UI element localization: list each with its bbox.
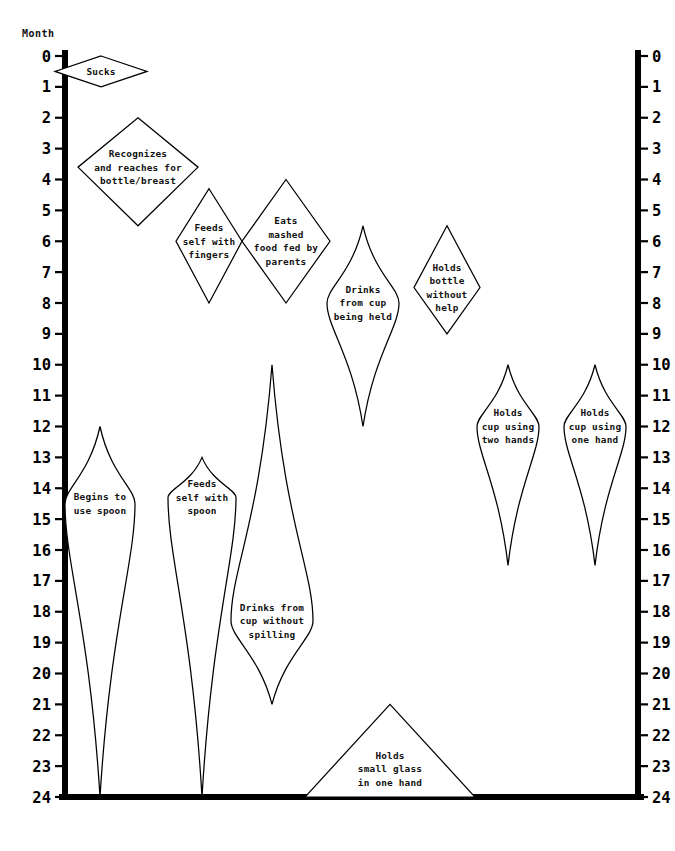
milestone-label-line: bottle/breast bbox=[100, 175, 176, 186]
milestone-label-line: from cup bbox=[340, 297, 387, 308]
milestone-label-line: cup using bbox=[482, 421, 535, 432]
y-axis-tick-label-left-23: 23 bbox=[32, 758, 51, 776]
milestone-label-line: use spoon bbox=[74, 505, 127, 516]
y-axis-title-group: Month bbox=[22, 28, 55, 39]
y-axis-tick-label-left-7: 7 bbox=[42, 264, 51, 282]
milestone-label-line: Holds bbox=[580, 407, 609, 418]
milestone-label-line: Feeds bbox=[194, 222, 223, 233]
milestone-label-line: Begins to bbox=[74, 491, 127, 502]
y-axis-tick-label-right-10: 10 bbox=[652, 356, 671, 374]
y-axis-tick-label-right-5: 5 bbox=[652, 202, 661, 220]
y-axis-tick-label-left-24: 24 bbox=[32, 789, 51, 807]
milestone-label-line: small glass bbox=[358, 763, 422, 774]
milestone-label-line: self with bbox=[176, 492, 229, 503]
y-axis-tick-label-right-17: 17 bbox=[652, 572, 671, 590]
milestone-label-line: self with bbox=[183, 236, 236, 247]
y-axis-tick-label-left-4: 4 bbox=[42, 171, 51, 189]
milestone-label-line: spoon bbox=[187, 505, 216, 516]
milestone-label-line: without bbox=[427, 289, 468, 300]
milestone-label-line: one hand bbox=[572, 434, 619, 445]
y-axis-tick-label-right-14: 14 bbox=[652, 480, 671, 498]
y-axis-tick-label-right-1: 1 bbox=[652, 78, 661, 96]
y-axis-tick-label-left-3: 3 bbox=[42, 140, 51, 158]
y-axis-tick-label-right-19: 19 bbox=[652, 634, 671, 652]
milestone-shape-drinks-from-cup-being-held bbox=[327, 226, 399, 427]
y-axis-tick-label-left-9: 9 bbox=[42, 325, 51, 343]
milestone-label-line: food fed by bbox=[254, 242, 318, 253]
y-axis-tick-label-left-6: 6 bbox=[42, 233, 51, 251]
y-axis-tick-label-right-7: 7 bbox=[652, 264, 661, 282]
milestone-label-line: help bbox=[435, 302, 459, 313]
y-axis-tick-label-right-24: 24 bbox=[652, 789, 671, 807]
chart-canvas: Month 0123456789101112131415161718192021… bbox=[0, 0, 675, 851]
y-axis-tick-label-right-3: 3 bbox=[652, 140, 661, 158]
y-axis-tick-label-left-18: 18 bbox=[32, 603, 51, 621]
milestone-label-drinks-from-cup-without-spilling: Drinks fromcup withoutspilling bbox=[240, 602, 304, 640]
milestone-label-line: and reaches for bbox=[94, 162, 182, 173]
milestone-label-line: spilling bbox=[249, 629, 296, 640]
y-axis-tick-label-left-21: 21 bbox=[32, 696, 51, 714]
y-axis-tick-label-left-13: 13 bbox=[32, 449, 51, 467]
milestone-label-line: Holds bbox=[493, 407, 522, 418]
milestone-label-line: two hands bbox=[482, 434, 535, 445]
y-axis-tick-label-left-17: 17 bbox=[32, 572, 51, 590]
y-axis-left-ticks: 0123456789101112131415161718192021222324 bbox=[32, 48, 64, 807]
y-axis-tick-label-left-0: 0 bbox=[42, 48, 51, 66]
y-axis-tick-label-right-13: 13 bbox=[652, 449, 671, 467]
milestone-label-line: Holds bbox=[375, 750, 404, 761]
y-axis-tick-label-right-2: 2 bbox=[652, 109, 661, 127]
y-axis-tick-label-left-11: 11 bbox=[32, 387, 51, 405]
y-axis-tick-label-right-8: 8 bbox=[652, 295, 661, 313]
milestone-shape-holds-cup-using-one-hand bbox=[564, 365, 626, 566]
y-axis-tick-label-right-4: 4 bbox=[652, 171, 661, 189]
y-axis-tick-label-left-16: 16 bbox=[32, 542, 51, 560]
milestone-label-line: being held bbox=[334, 311, 392, 322]
milestone-timeline-chart: Month 0123456789101112131415161718192021… bbox=[0, 0, 675, 851]
milestone-label-line: mashed bbox=[268, 229, 303, 240]
milestone-shape-drinks-from-cup-without-spilling bbox=[231, 365, 313, 705]
y-axis-right-ticks: 0123456789101112131415161718192021222324 bbox=[639, 48, 671, 807]
y-axis-tick-label-right-21: 21 bbox=[652, 696, 671, 714]
milestone-shape-begins-to-use-spoon bbox=[65, 427, 135, 798]
y-axis-tick-label-right-0: 0 bbox=[652, 48, 661, 66]
milestone-label-line: fingers bbox=[189, 249, 230, 260]
milestone-label-line: bottle bbox=[429, 275, 464, 286]
y-axis-tick-label-right-11: 11 bbox=[652, 387, 671, 405]
y-axis-tick-label-left-8: 8 bbox=[42, 295, 51, 313]
y-axis-tick-label-right-16: 16 bbox=[652, 542, 671, 560]
milestone-label-line: Eats bbox=[274, 215, 297, 226]
y-axis-tick-label-left-5: 5 bbox=[42, 202, 51, 220]
milestone-label-line: Feeds bbox=[187, 478, 216, 489]
y-axis-tick-label-right-23: 23 bbox=[652, 758, 671, 776]
y-axis-tick-label-right-20: 20 bbox=[652, 665, 671, 683]
y-axis-tick-label-right-22: 22 bbox=[652, 727, 671, 745]
y-axis-tick-label-right-9: 9 bbox=[652, 325, 661, 343]
y-axis-tick-label-left-19: 19 bbox=[32, 634, 51, 652]
y-axis-title: Month bbox=[22, 28, 55, 39]
y-axis-tick-label-left-22: 22 bbox=[32, 727, 51, 745]
milestone-label-line: cup using bbox=[569, 421, 622, 432]
milestone-label-sucks: Sucks bbox=[86, 66, 115, 77]
milestone-label-line: Sucks bbox=[86, 66, 115, 77]
milestone-shape-eats-mashed-food-fed-by-parents bbox=[242, 180, 330, 304]
milestone-label-line: cup without bbox=[240, 615, 304, 626]
y-axis-tick-label-left-2: 2 bbox=[42, 109, 51, 127]
milestone-label-line: Drinks from bbox=[240, 602, 304, 613]
milestone-label-line: in one hand bbox=[358, 777, 422, 788]
milestone-label-line: Recognizes bbox=[109, 148, 167, 159]
milestone-label-line: Holds bbox=[432, 262, 461, 273]
y-axis-tick-label-left-20: 20 bbox=[32, 665, 51, 683]
y-axis-tick-label-left-15: 15 bbox=[32, 511, 51, 529]
milestone-label-line: Drinks bbox=[345, 284, 380, 295]
y-axis-tick-label-left-10: 10 bbox=[32, 356, 51, 374]
milestone-label-line: parents bbox=[266, 256, 307, 267]
y-axis-tick-label-right-12: 12 bbox=[652, 418, 671, 436]
milestone-shape-holds-cup-using-two-hands bbox=[477, 365, 539, 566]
y-axis-tick-label-right-15: 15 bbox=[652, 511, 671, 529]
y-axis-tick-label-left-1: 1 bbox=[42, 78, 51, 96]
y-axis-tick-label-right-6: 6 bbox=[652, 233, 661, 251]
y-axis-tick-label-right-18: 18 bbox=[652, 603, 671, 621]
y-axis-tick-label-left-12: 12 bbox=[32, 418, 51, 436]
y-axis-tick-label-left-14: 14 bbox=[32, 480, 51, 498]
